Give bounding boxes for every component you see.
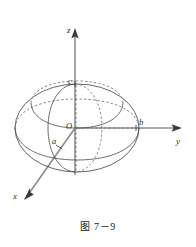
figure-container: z y x O c b a 图 7－9: [0, 0, 196, 247]
x-axis: [24, 128, 75, 200]
x-axis-label: x: [13, 192, 17, 201]
z-axis: [71, 28, 78, 175]
equator-front-arc: [15, 128, 139, 160]
equator-back-arc: [15, 99, 139, 128]
origin-label: O: [66, 122, 72, 131]
z-axis-label: z: [67, 26, 71, 35]
y-intercept-label-b: b: [139, 118, 143, 127]
x-intercept-label-a: a: [52, 137, 56, 146]
y-axis-label: y: [176, 137, 180, 146]
upper-section-front-arc: [31, 103, 123, 128]
z-intercept-label-c: c: [68, 77, 72, 86]
figure-caption: 图 7－9: [0, 218, 196, 233]
ellipsoid-diagram: [0, 0, 196, 247]
